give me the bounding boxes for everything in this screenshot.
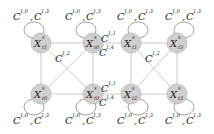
svg-text:1,4: 1,4	[106, 44, 114, 50]
svg-text:1,3: 1,3	[145, 8, 153, 14]
node-8-label: X	[169, 89, 178, 100]
svg-text:1,1: 1,1	[108, 30, 116, 36]
svg-text:,: ,	[182, 11, 185, 22]
svg-text:1,3: 1,3	[93, 112, 101, 118]
svg-text:t3: t3	[178, 95, 183, 101]
svg-text:1,0: 1,0	[72, 8, 81, 14]
svg-text:s: s	[178, 34, 181, 40]
svg-text:s: s	[42, 34, 45, 40]
svg-text:1,0: 1,0	[172, 112, 181, 118]
svg-text:s: s	[178, 85, 181, 91]
svg-text:1,2: 1,2	[62, 50, 70, 56]
node-5-label: X	[33, 89, 42, 100]
svg-text:s: s	[94, 34, 97, 40]
node-2-label: X	[85, 38, 94, 49]
svg-text:1,3: 1,3	[193, 112, 201, 118]
svg-text:1,0: 1,0	[172, 8, 181, 14]
svg-text:,: ,	[30, 11, 33, 22]
svg-text:,: ,	[182, 115, 185, 126]
svg-text:s: s	[42, 85, 45, 91]
svg-text:s: s	[132, 85, 135, 91]
svg-text:1,0: 1,0	[20, 8, 29, 14]
svg-text:,: ,	[82, 115, 85, 126]
node-4-label: X	[169, 38, 178, 49]
svg-text:,: ,	[134, 11, 137, 22]
svg-text:t2: t2	[132, 95, 137, 101]
svg-text:1,1: 1,1	[108, 80, 116, 86]
svg-text:1,3: 1,3	[41, 8, 49, 14]
svg-text:1,0: 1,0	[124, 8, 133, 14]
svg-text:t1: t1	[42, 44, 47, 50]
svg-text:t0: t0	[42, 95, 48, 101]
svg-text:1,2: 1,2	[152, 50, 160, 56]
node-7-label: X	[123, 89, 132, 100]
svg-text:1,0: 1,0	[124, 112, 133, 118]
svg-text:,: ,	[134, 115, 137, 126]
svg-text:,: ,	[30, 115, 33, 126]
svg-text:1,0: 1,0	[72, 112, 81, 118]
graph-diagram: X s t1 X s t0 X s t1 X s t3 X s t0 X s t…	[0, 0, 214, 134]
svg-text:1,3: 1,3	[93, 8, 101, 14]
svg-text:1,3: 1,3	[193, 8, 201, 14]
node-1-label: X	[33, 38, 42, 49]
svg-text:1,3: 1,3	[41, 112, 49, 118]
svg-text:t1: t1	[132, 44, 137, 50]
svg-text:s: s	[132, 34, 135, 40]
svg-text:1,4: 1,4	[106, 94, 114, 100]
node-6-label: X	[85, 89, 94, 100]
svg-text:1,0: 1,0	[20, 112, 29, 118]
svg-text:1,3: 1,3	[145, 112, 153, 118]
svg-text:t3: t3	[178, 44, 183, 50]
svg-text:s: s	[94, 85, 97, 91]
edge-labels: C 1,2 C 1,2 C 1,1 C 1,4 C 1,1 C 1,4	[55, 30, 160, 108]
svg-text:,: ,	[82, 11, 85, 22]
node-3-label: X	[123, 38, 132, 49]
